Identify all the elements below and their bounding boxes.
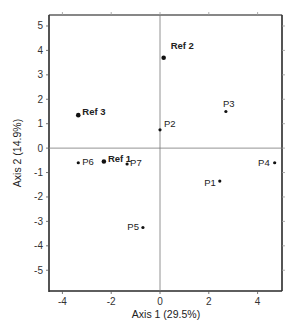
data-point-ref-3: Ref 3 — [76, 106, 106, 117]
data-point-ref-2: Ref 2 — [161, 40, 194, 60]
x-tick-label: -2 — [107, 296, 116, 307]
point-marker — [76, 113, 81, 118]
x-tick-label: 2 — [206, 296, 212, 307]
y-tick-label: -1 — [34, 167, 43, 178]
point-label: Ref 1 — [108, 153, 132, 164]
point-label: P1 — [204, 177, 216, 188]
point-label: P5 — [127, 221, 139, 232]
point-marker — [273, 161, 276, 164]
data-points: Ref 1Ref 2Ref 3P1P2P3P4P5P6P7 — [76, 40, 276, 233]
point-marker — [218, 179, 221, 182]
y-tick-label: -3 — [34, 216, 43, 227]
point-label: Ref 2 — [171, 40, 194, 51]
point-marker — [77, 161, 80, 164]
data-point-p3: P3 — [223, 98, 235, 113]
point-marker — [224, 110, 227, 113]
point-marker — [141, 226, 144, 229]
data-point-ref-1: Ref 1 — [102, 153, 132, 164]
point-marker — [161, 55, 166, 60]
y-tick-label: 0 — [37, 143, 43, 154]
y-tick-label: 4 — [37, 45, 43, 56]
pca-scatter-chart: -4-2024543210-1-2-3-4-5 Ref 1Ref 2Ref 3P… — [0, 0, 294, 328]
x-axis-label: Axis 1 (29.5%) — [132, 308, 200, 320]
y-tick-label: 2 — [37, 94, 43, 105]
data-point-p5: P5 — [127, 221, 144, 232]
x-tick-label: -4 — [58, 296, 67, 307]
point-marker — [102, 159, 107, 164]
y-tick-label: 1 — [37, 118, 43, 129]
y-tick-label: -4 — [34, 240, 43, 251]
y-tick-label: 3 — [37, 69, 43, 80]
point-label: P4 — [258, 157, 270, 168]
point-marker — [158, 128, 161, 131]
point-label: Ref 3 — [82, 106, 105, 117]
y-tick-label: -5 — [34, 265, 43, 276]
y-tick-label: 5 — [37, 20, 43, 31]
data-point-p6: P6 — [77, 156, 94, 167]
point-label: P3 — [223, 98, 235, 109]
data-point-p4: P4 — [258, 157, 276, 168]
point-marker — [125, 162, 128, 165]
x-tick-label: 0 — [157, 296, 163, 307]
y-tick-label: -2 — [34, 191, 43, 202]
point-label: P7 — [130, 157, 142, 168]
axes: -4-2024543210-1-2-3-4-5 — [34, 12, 285, 307]
point-label: P6 — [82, 156, 94, 167]
data-point-p2: P2 — [158, 118, 175, 132]
data-point-p1: P1 — [204, 177, 221, 188]
y-axis-label: Axis 2 (14.9%) — [11, 119, 23, 187]
point-label: P2 — [164, 118, 176, 129]
x-tick-label: 4 — [255, 296, 261, 307]
